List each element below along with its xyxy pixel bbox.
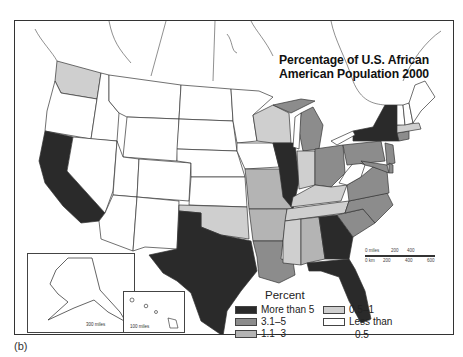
alaska-shape (28, 254, 134, 332)
hawaii-inset: 100 miles (123, 291, 185, 333)
alaska-scale-label: 300 miles (86, 322, 105, 327)
scale-km-tick-200: 200 (383, 258, 391, 263)
state-in (297, 151, 315, 189)
state-nd (179, 85, 233, 121)
state-sd (177, 119, 237, 151)
scale-km-tick-600: 600 (427, 258, 435, 263)
legend-title: Percent (265, 289, 305, 301)
state-mi (299, 107, 323, 151)
figure-caption: (b) (14, 340, 27, 352)
legend-label-1-1-3: 1.1–3 (261, 328, 286, 339)
state-nm (133, 197, 179, 251)
scale-bar-line (365, 255, 435, 257)
title-line-1: Percentage of U.S. African (279, 53, 429, 67)
state-ny (353, 105, 399, 141)
legend-label-0-5: 0.5 (355, 329, 369, 340)
state-de (389, 163, 393, 173)
legend-label-0-5-1: 0.5–1 (349, 304, 374, 315)
map-title: Percentage of U.S. African American Popu… (279, 53, 429, 81)
scale-km-tick-400: 400 (405, 258, 413, 263)
scale-bar: 0 miles 200 400 0 km 200 400 600 (365, 248, 445, 268)
lake-erie (331, 131, 355, 145)
scale-miles-label: 0 miles (365, 248, 379, 253)
legend-swatch-more-than-5 (235, 306, 257, 314)
legend-swatch-0-5-1 (323, 306, 345, 314)
state-co (137, 159, 191, 201)
legend-label-more-than-5: More than 5 (261, 304, 314, 315)
state-me (409, 81, 435, 123)
hawaii-scale-label: 100 miles (130, 324, 149, 329)
legend-swatch-1-1-3 (235, 330, 257, 338)
legend-swatch-less-than-0-5 (323, 318, 345, 326)
state-nj (385, 143, 395, 165)
scale-km-label: 0 km (365, 258, 375, 263)
state-ms (283, 219, 301, 265)
title-line-2: American Population 2000 (279, 67, 429, 81)
state-mt (109, 75, 181, 119)
legend-label-3-1-5: 3.1–5 (261, 316, 286, 327)
lake-michigan (293, 113, 301, 149)
scale-miles-tick-400: 400 (407, 248, 415, 253)
alaska-inset: 300 miles (27, 253, 135, 333)
state-ar (249, 209, 287, 241)
scale-miles-tick-200: 200 (391, 248, 399, 253)
state-ks (189, 177, 247, 207)
state-wy (123, 117, 179, 161)
legend-swatch-3-1-5 (235, 318, 257, 326)
state-ia (237, 143, 279, 169)
legend-label-less-than: Less than (349, 316, 392, 327)
